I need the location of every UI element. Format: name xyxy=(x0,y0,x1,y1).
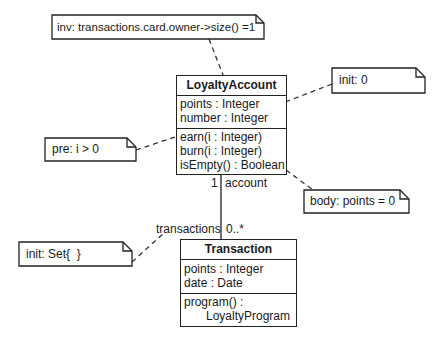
operation: burn(i : Integer) xyxy=(180,144,283,158)
class-loyaltyaccount[interactable]: LoyaltyAccount points : Integer number :… xyxy=(176,75,287,175)
attribute: points : Integer xyxy=(180,97,283,111)
note-body-text: body: points = 0 xyxy=(310,194,395,208)
attribute: points : Integer xyxy=(184,262,293,276)
operations-section: program() : LoyaltyProgram xyxy=(181,293,296,325)
anchor-pre xyxy=(136,136,178,150)
attributes-section: points : Integer number : Integer xyxy=(177,96,286,128)
operation: earn(i : Integer) xyxy=(180,130,283,144)
class-name: Transaction xyxy=(181,240,296,260)
note-pre: pre: i > 0 xyxy=(45,138,136,161)
operation: isEmpty() : Boolean xyxy=(180,158,283,172)
note-inv-text: inv: transactions.card.owner->size() =1 xyxy=(57,20,255,34)
note-init-transactions: init: Set{ } xyxy=(19,242,132,266)
note-body: body: points = 0 xyxy=(304,190,409,213)
operation-return-type: LoyaltyProgram xyxy=(184,309,293,323)
role-account: account xyxy=(225,176,267,190)
attribute: number : Integer xyxy=(180,111,283,125)
operation: program() : xyxy=(184,295,293,309)
role-transactions: transactions xyxy=(156,222,221,236)
note-init-points-text: init: 0 xyxy=(339,73,368,87)
operations-section: earn(i : Integer) burn(i : Integer) isEm… xyxy=(177,128,286,174)
multiplicity-transactions: 0..* xyxy=(226,222,244,236)
anchor-inv xyxy=(209,39,223,75)
attributes-section: points : Integer date : Date xyxy=(181,260,296,293)
anchor-init-transactions xyxy=(132,232,165,262)
attribute: date : Date xyxy=(184,276,293,290)
class-name: LoyaltyAccount xyxy=(177,76,286,96)
note-pre-text: pre: i > 0 xyxy=(52,142,99,156)
note-init-points: init: 0 xyxy=(332,68,425,93)
anchor-body xyxy=(286,170,313,190)
note-inv: inv: transactions.card.owner->size() =1 xyxy=(52,15,264,39)
multiplicity-account: 1 xyxy=(211,176,218,190)
class-transaction[interactable]: Transaction points : Integer date : Date… xyxy=(180,239,297,327)
note-init-transactions-text: init: Set{ } xyxy=(26,247,81,261)
